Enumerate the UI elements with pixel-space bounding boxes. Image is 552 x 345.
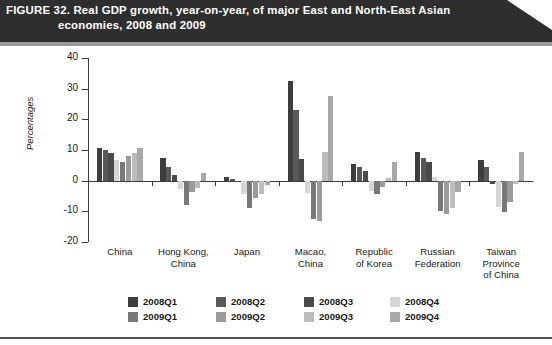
bar-hongkongchina-2009Q2 bbox=[189, 181, 194, 192]
y-tick-label-30: 30 bbox=[38, 82, 78, 93]
bar-japan-2009Q4 bbox=[265, 181, 270, 185]
legend-label-2009Q4: 2009Q4 bbox=[405, 311, 439, 322]
legend-item-2008Q4[interactable]: 2008Q4 bbox=[390, 296, 439, 307]
bar-hongkongchina-2009Q4 bbox=[201, 173, 206, 181]
legend-swatch-2009Q4 bbox=[390, 312, 400, 322]
bar-republicofkorea-2009Q1 bbox=[374, 181, 379, 194]
bar-republicofkorea-2008Q2 bbox=[357, 167, 362, 180]
y-tick-label--20: -20 bbox=[38, 235, 78, 246]
bar-china-2008Q1 bbox=[97, 148, 102, 181]
bar-macaochina-2009Q1 bbox=[311, 181, 316, 219]
y-tick-label-40: 40 bbox=[38, 51, 78, 62]
chart-legend: 2008Q12008Q22008Q32008Q4 2009Q12009Q2200… bbox=[128, 296, 428, 326]
bar-macaochina-2009Q3 bbox=[322, 152, 327, 181]
bar-china-2009Q4 bbox=[137, 148, 142, 181]
bar-russianfederation-2008Q2 bbox=[421, 158, 426, 181]
bar-taiwanprovinceofchina-2008Q3 bbox=[490, 181, 495, 184]
legend-label-2008Q1: 2008Q1 bbox=[143, 296, 177, 307]
bar-macaochina-2008Q4 bbox=[305, 181, 310, 193]
bar-japan-2009Q3 bbox=[259, 181, 264, 195]
x-axis-category-labels: ChinaHong Kong,ChinaJapanMacao,ChinaRepu… bbox=[88, 246, 533, 292]
legend-item-2009Q1[interactable]: 2009Q1 bbox=[128, 311, 177, 322]
x-label-line: Province bbox=[463, 258, 539, 270]
legend-item-2009Q3[interactable]: 2009Q3 bbox=[304, 311, 353, 322]
bar-japan-2008Q4 bbox=[241, 181, 246, 195]
legend-label-2009Q1: 2009Q1 bbox=[143, 311, 177, 322]
x-group-separator bbox=[469, 181, 470, 186]
banner-text-block: FIGURE 32. Real GDP growth, year-on-year… bbox=[6, 3, 511, 33]
bar-china-2009Q3 bbox=[132, 153, 137, 181]
bar-taiwanprovinceofchina-2009Q2 bbox=[507, 181, 512, 203]
legend-swatch-2009Q1 bbox=[128, 312, 138, 322]
legend-swatch-2008Q1 bbox=[128, 297, 138, 307]
bar-republicofkorea-2008Q1 bbox=[351, 164, 356, 181]
bar-taiwanprovinceofchina-2008Q4 bbox=[496, 181, 501, 207]
figure-title-banner: FIGURE 32. Real GDP growth, year-on-year… bbox=[0, 0, 552, 42]
y-tick-label-0: 0 bbox=[38, 174, 78, 185]
bar-taiwanprovinceofchina-2009Q3 bbox=[513, 181, 518, 185]
figure-title-line-1: Real GDP growth, year-on-year, of major … bbox=[73, 4, 450, 16]
bar-russianfederation-2008Q3 bbox=[426, 162, 431, 180]
legend-swatch-2008Q2 bbox=[216, 297, 226, 307]
bar-macaochina-2008Q2 bbox=[293, 110, 298, 181]
legend-item-2009Q4[interactable]: 2009Q4 bbox=[390, 311, 439, 322]
legend-label-2008Q3: 2008Q3 bbox=[319, 296, 353, 307]
bar-china-2009Q1 bbox=[120, 162, 125, 181]
legend-item-2008Q2[interactable]: 2008Q2 bbox=[216, 296, 265, 307]
x-group-separator bbox=[342, 181, 343, 186]
bar-russianfederation-2009Q3 bbox=[450, 181, 455, 208]
bar-china-2008Q3 bbox=[108, 153, 113, 181]
bar-republicofkorea-2008Q4 bbox=[369, 181, 374, 191]
bar-hongkongchina-2009Q3 bbox=[195, 181, 200, 188]
x-group-separator bbox=[152, 181, 153, 186]
bar-taiwanprovinceofchina-2009Q4 bbox=[519, 152, 524, 180]
bar-russianfederation-2008Q4 bbox=[432, 177, 437, 181]
x-label-line: of China bbox=[463, 269, 539, 281]
legend-item-2009Q2[interactable]: 2009Q2 bbox=[216, 311, 265, 322]
y-axis-title: Percentages bbox=[24, 97, 35, 150]
legend-label-2008Q2: 2008Q2 bbox=[231, 296, 265, 307]
bar-china-2009Q2 bbox=[126, 156, 131, 180]
legend-label-2009Q2: 2009Q2 bbox=[231, 311, 265, 322]
bar-hongkongchina-2008Q3 bbox=[172, 175, 177, 180]
bar-japan-2008Q3 bbox=[236, 181, 241, 182]
x-label-taiwanprovinceofchina: TaiwanProvinceof China bbox=[463, 246, 539, 281]
bar-russianfederation-2008Q1 bbox=[415, 152, 420, 180]
legend-label-2008Q4: 2008Q4 bbox=[405, 296, 439, 307]
figure-title-line-2: economies, 2008 and 2009 bbox=[6, 18, 511, 33]
legend-swatch-2008Q4 bbox=[390, 297, 400, 307]
legend-row-2008: 2008Q12008Q22008Q32008Q4 bbox=[128, 296, 428, 311]
bar-republicofkorea-2009Q4 bbox=[392, 162, 397, 180]
bar-china-2008Q4 bbox=[114, 160, 119, 181]
bar-macaochina-2009Q2 bbox=[317, 181, 322, 221]
chart-area: Percentages 403020100-10-20 ChinaHong Ko… bbox=[0, 46, 552, 345]
bar-republicofkorea-2009Q3 bbox=[386, 178, 391, 181]
legend-swatch-2008Q3 bbox=[304, 297, 314, 307]
bar-hongkongchina-2008Q4 bbox=[178, 181, 183, 189]
plot-bars-area bbox=[88, 58, 533, 242]
legend-label-2009Q3: 2009Q3 bbox=[319, 311, 353, 322]
bar-hongkongchina-2008Q2 bbox=[166, 167, 171, 180]
bar-russianfederation-2009Q1 bbox=[438, 181, 443, 211]
bar-taiwanprovinceofchina-2008Q1 bbox=[478, 160, 483, 181]
bar-republicofkorea-2009Q2 bbox=[380, 181, 385, 188]
x-label-line: Taiwan bbox=[463, 246, 539, 258]
x-group-separator bbox=[215, 181, 216, 186]
y-tick-label--10: -10 bbox=[38, 204, 78, 215]
x-label-line: China bbox=[146, 258, 222, 270]
bar-macaochina-2009Q4 bbox=[328, 96, 333, 180]
bar-macaochina-2008Q3 bbox=[299, 159, 304, 180]
bar-japan-2009Q2 bbox=[253, 181, 258, 198]
bar-macaochina-2008Q1 bbox=[288, 81, 293, 181]
x-group-separator bbox=[406, 181, 407, 186]
figure-number: FIGURE 32. bbox=[6, 4, 70, 16]
y-tick--20 bbox=[82, 242, 88, 243]
bar-japan-2009Q1 bbox=[247, 181, 252, 208]
bar-china-2008Q2 bbox=[103, 150, 108, 181]
bar-hongkongchina-2009Q1 bbox=[184, 181, 189, 205]
y-tick-label-20: 20 bbox=[38, 112, 78, 123]
legend-row-2009: 2009Q12009Q22009Q32009Q4 bbox=[128, 311, 428, 326]
legend-item-2008Q3[interactable]: 2008Q3 bbox=[304, 296, 353, 307]
legend-item-2008Q1[interactable]: 2008Q1 bbox=[128, 296, 177, 307]
y-tick-label-10: 10 bbox=[38, 143, 78, 154]
